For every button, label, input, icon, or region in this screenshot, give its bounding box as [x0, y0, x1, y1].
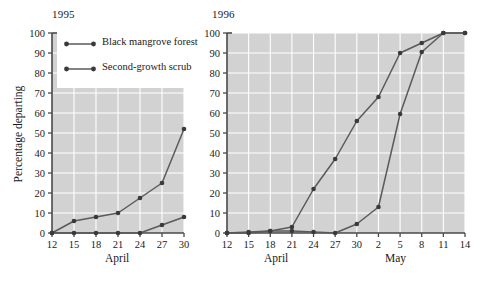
y-tick-label: 100 — [204, 28, 220, 39]
x-tick-label: 24 — [308, 239, 319, 250]
y-tick-label: 10 — [35, 208, 46, 219]
x-tick-label: 2 — [376, 239, 381, 250]
y-tick-label: 50 — [210, 128, 221, 139]
x-tick-label: 15 — [69, 239, 80, 250]
y-tick-label: 50 — [35, 128, 46, 139]
y-tick-label: 80 — [35, 68, 46, 79]
plot-area-1996: 0102030405060708090100 12151821242730258… — [197, 0, 483, 281]
x-tick-label: 18 — [91, 239, 102, 250]
series-point-0 — [116, 211, 121, 216]
y-tick-label: 0 — [40, 228, 45, 239]
series-point-0 — [398, 51, 403, 56]
series-point-1 — [138, 231, 143, 236]
y-tick-label: 20 — [210, 188, 221, 199]
x-axis-label-april-1996: April — [264, 252, 288, 264]
series-point-1 — [182, 215, 187, 220]
y-tick-label: 90 — [35, 48, 46, 59]
x-tick-label: 8 — [419, 239, 424, 250]
figure-container: 1995 Percentage departing 01020304050607… — [0, 0, 483, 281]
series-point-1 — [94, 231, 99, 236]
y-tick-label: 70 — [210, 88, 221, 99]
series-point-1 — [419, 50, 424, 55]
series-point-1 — [441, 31, 446, 36]
y-tick-label: 60 — [35, 108, 46, 119]
legend: Black mangrove forest Second-growth scru… — [57, 33, 190, 88]
x-tick-label: 30 — [179, 239, 190, 250]
legend-label-0: Black mangrove forest — [102, 36, 197, 49]
series-point-1 — [246, 230, 251, 235]
x-tick-label: 11 — [438, 239, 448, 250]
series-point-1 — [50, 231, 55, 236]
series-point-0 — [311, 187, 316, 192]
panel-title-1996: 1996 — [212, 8, 235, 20]
series-point-0 — [138, 196, 143, 201]
y-tick-label: 10 — [210, 208, 221, 219]
legend-swatch-icon-0 — [63, 40, 97, 48]
y-tick-label: 0 — [215, 228, 220, 239]
x-tick-label: 27 — [157, 239, 168, 250]
series-point-1 — [268, 229, 273, 234]
series-point-1 — [398, 112, 403, 117]
series-point-1 — [376, 205, 381, 210]
series-point-1 — [311, 230, 316, 235]
series-point-1 — [116, 231, 121, 236]
x-axis-label-may-1996: May — [385, 252, 406, 264]
chart-panel-1996: 1996 0102030405060708090100 121518212427… — [197, 0, 483, 281]
y-tick-label: 40 — [35, 148, 46, 159]
series-point-1 — [355, 222, 360, 227]
y-tick-label: 30 — [210, 168, 221, 179]
series-point-1 — [160, 223, 165, 228]
series-point-1 — [333, 231, 338, 236]
x-axis-label-april-1995: April — [105, 252, 129, 264]
series-point-0 — [355, 119, 360, 124]
x-tick-label: 24 — [135, 239, 146, 250]
x-tick-label: 5 — [397, 239, 402, 250]
y-tick-label: 40 — [210, 148, 221, 159]
x-tick-labels-1995: 12151821242730 — [47, 239, 190, 250]
series-point-0 — [376, 95, 381, 100]
y-tick-label: 60 — [210, 108, 221, 119]
series-point-0 — [182, 127, 187, 132]
y-tick-label: 90 — [210, 48, 221, 59]
series-point-1 — [225, 231, 230, 236]
series-point-0 — [94, 215, 99, 220]
x-tick-label: 21 — [113, 239, 124, 250]
x-tick-label: 18 — [265, 239, 276, 250]
series-point-0 — [419, 41, 424, 46]
x-tick-labels-1996: 121518212427302581114 — [222, 239, 471, 250]
series-point-1 — [290, 229, 295, 234]
x-tick-label: 21 — [287, 239, 298, 250]
y-tick-label: 80 — [210, 68, 221, 79]
y-tick-labels-1995: 0102030405060708090100 — [29, 28, 45, 239]
y-tick-label: 70 — [35, 88, 46, 99]
chart-panel-1995: 1995 Percentage departing 01020304050607… — [0, 0, 200, 281]
legend-swatch-icon-1 — [63, 65, 97, 73]
y-tick-labels-1996: 0102030405060708090100 — [204, 28, 220, 239]
x-tick-label: 15 — [243, 239, 254, 250]
x-tick-label: 14 — [460, 239, 471, 250]
y-tick-label: 100 — [29, 28, 45, 39]
series-point-0 — [290, 225, 295, 230]
series-point-1 — [463, 31, 468, 36]
series-point-0 — [72, 219, 77, 224]
series-point-0 — [160, 181, 165, 186]
legend-label-1: Second-growth scrub — [102, 61, 197, 74]
y-tick-label: 20 — [35, 188, 46, 199]
y-axis-label: Percentage departing — [12, 39, 24, 229]
x-tick-label: 30 — [352, 239, 363, 250]
y-tick-label: 30 — [35, 168, 46, 179]
series-point-1 — [72, 231, 77, 236]
series-point-0 — [333, 157, 338, 162]
x-tick-label: 27 — [330, 239, 341, 250]
x-tick-label: 12 — [222, 239, 233, 250]
x-tick-label: 12 — [47, 239, 58, 250]
panel-title-1995: 1995 — [52, 8, 75, 20]
